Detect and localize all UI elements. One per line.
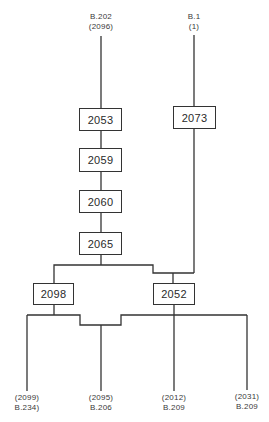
output-4-number: (2031) <box>225 392 269 402</box>
output-label-4: (2031) B.209 <box>225 392 269 412</box>
lineage-diagram: B.202 (2096) B.1 (1) 2053 2059 2060 2065… <box>0 0 269 422</box>
output-3-id: B.209 <box>152 403 196 413</box>
node-2065: 2065 <box>79 232 122 255</box>
source-left-id: B.202 <box>79 12 123 22</box>
node-2098: 2098 <box>33 283 74 305</box>
connector-lines <box>0 0 269 422</box>
node-2052: 2052 <box>153 283 195 305</box>
node-2059: 2059 <box>79 148 122 172</box>
output-1-id: B.234) <box>5 403 49 413</box>
node-2073: 2073 <box>173 106 216 129</box>
source-right-id: B.1 <box>172 12 216 22</box>
output-4-id: B.209 <box>225 402 269 412</box>
node-2053: 2053 <box>79 108 122 131</box>
source-label-left: B.202 (2096) <box>79 12 123 32</box>
output-2-id: B.206 <box>79 403 123 413</box>
output-3-number: (2012) <box>152 393 196 403</box>
output-label-3: (2012) B.209 <box>152 393 196 413</box>
output-label-1: (2099) B.234) <box>5 393 49 413</box>
source-right-number: (1) <box>172 22 216 32</box>
output-1-number: (2099) <box>5 393 49 403</box>
source-label-right: B.1 (1) <box>172 12 216 32</box>
source-left-number: (2096) <box>79 22 123 32</box>
output-label-2: (2095) B.206 <box>79 393 123 413</box>
output-2-number: (2095) <box>79 393 123 403</box>
edge-lower-split <box>27 315 247 325</box>
node-2060: 2060 <box>79 190 122 213</box>
